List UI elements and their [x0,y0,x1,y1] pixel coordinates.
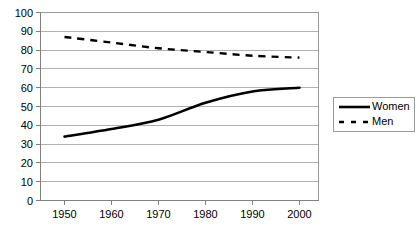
y-tick-label-100: 100 [15,7,33,19]
y-tick-label-10: 10 [21,176,33,188]
chart-legend: Women Men [334,98,415,132]
chart-canvas: 100 90 80 70 60 50 40 30 20 10 0 1950 19… [0,0,418,242]
y-tick-label-40: 40 [21,119,33,131]
y-tick-label-20: 20 [21,157,33,169]
y-tick-label-70: 70 [21,63,33,75]
legend-label-women: Women [372,100,410,112]
y-tick-label-30: 30 [21,138,33,150]
line-chart: 100 90 80 70 60 50 40 30 20 10 0 1950 19… [0,0,418,242]
y-tick-label-80: 80 [21,44,33,56]
x-tick-label-1980: 1980 [193,208,217,220]
y-tick-label-50: 50 [21,101,33,113]
legend-label-men: Men [372,115,393,127]
x-tick-label-1950: 1950 [52,208,76,220]
y-tick-label-0: 0 [27,195,33,207]
x-tick-label-1970: 1970 [146,208,170,220]
y-tick-label-90: 90 [21,25,33,37]
x-tick-label-2000: 2000 [287,208,311,220]
x-tick-label-1960: 1960 [99,208,123,220]
x-tick-label-1990: 1990 [240,208,264,220]
y-tick-label-60: 60 [21,82,33,94]
